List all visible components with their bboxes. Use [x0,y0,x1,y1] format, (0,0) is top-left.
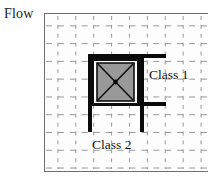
class1-element [96,62,135,102]
class1-label: Class 1 [149,67,188,82]
flow-axis-label: Flow [4,6,34,22]
class2-label: Class 2 [92,137,131,152]
flow-class-diagram: Flow [0,0,208,179]
square-with-diagonals-icon [96,62,135,102]
